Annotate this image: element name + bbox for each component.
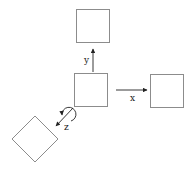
z-label: z <box>64 122 69 132</box>
top-square <box>77 10 110 43</box>
transform-diagram: y x z <box>0 0 192 176</box>
center-square <box>75 74 108 107</box>
z-rotation-arc-icon <box>62 107 76 121</box>
right-square <box>151 75 184 108</box>
y-label: y <box>83 55 90 65</box>
rotated-square <box>12 116 58 162</box>
x-label: x <box>130 93 135 103</box>
